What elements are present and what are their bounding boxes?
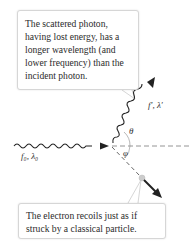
incident-photon-label: f₀, λ₀ xyxy=(21,151,38,161)
theta-label: θ xyxy=(129,126,133,136)
callout-top-pointer xyxy=(122,90,135,99)
phi-label: φ xyxy=(123,148,128,158)
scattered-photon-callout: The scattered photon, having lost energy… xyxy=(17,10,139,90)
electron-recoil-callout: The electron recoils just as if struck b… xyxy=(18,203,166,239)
incident-photon-wave xyxy=(14,144,92,148)
callout-bottom-pointer xyxy=(128,180,141,203)
scattered-photon-label: f′, λ′ xyxy=(148,100,163,110)
scattered-arrowhead xyxy=(147,77,155,88)
incident-arrowhead xyxy=(100,143,109,150)
